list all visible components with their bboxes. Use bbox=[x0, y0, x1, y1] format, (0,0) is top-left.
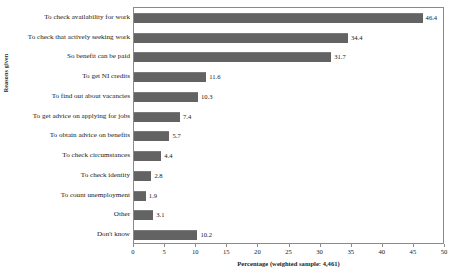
bar bbox=[134, 52, 331, 62]
bar-value-label: 31.7 bbox=[334, 52, 346, 62]
x-tick-mark bbox=[413, 244, 414, 247]
horizontal-bar-chart: Reasons given To check availability for … bbox=[0, 0, 454, 275]
x-tick-label: 20 bbox=[245, 248, 269, 256]
x-tick-label: 40 bbox=[370, 248, 394, 256]
x-tick-mark bbox=[320, 244, 321, 247]
x-tick-label: 15 bbox=[214, 248, 238, 256]
x-tick-label: 5 bbox=[152, 248, 176, 256]
bar-value-label: 3.1 bbox=[156, 210, 164, 220]
x-tick-label: 25 bbox=[277, 248, 301, 256]
x-tick-mark bbox=[289, 244, 290, 247]
bar bbox=[134, 210, 153, 220]
bar-value-label: 1.9 bbox=[149, 191, 157, 201]
x-tick-mark bbox=[226, 244, 227, 247]
bar-value-label: 10.2 bbox=[200, 230, 212, 240]
category-label: Don't know bbox=[10, 230, 130, 238]
x-tick-label: 0 bbox=[121, 248, 145, 256]
x-tick-label: 50 bbox=[432, 248, 454, 256]
bar bbox=[134, 72, 206, 82]
bar-value-label: 5.7 bbox=[172, 131, 180, 141]
category-label: To get advice on applying for jobs bbox=[10, 112, 130, 120]
bar bbox=[134, 171, 151, 181]
x-tick-label: 45 bbox=[401, 248, 425, 256]
x-tick-mark bbox=[444, 244, 445, 247]
category-label: So benefit can be paid bbox=[10, 52, 130, 60]
category-label: To get NI credits bbox=[10, 72, 130, 80]
category-label: To count unemployment bbox=[10, 191, 130, 199]
bar bbox=[134, 151, 161, 161]
x-tick-mark bbox=[382, 244, 383, 247]
x-axis-title: Percentage (weighted sample: 4,461) bbox=[133, 260, 444, 267]
bar bbox=[134, 131, 169, 141]
bar-value-label: 34.4 bbox=[351, 33, 363, 43]
bar-value-label: 2.8 bbox=[154, 171, 162, 181]
plot-area: 46.434.431.711.610.37.45.74.42.81.93.110… bbox=[133, 7, 444, 244]
bar bbox=[134, 191, 146, 201]
category-label: To obtain advice on benefits bbox=[10, 131, 130, 139]
x-tick-label: 10 bbox=[183, 248, 207, 256]
category-axis-labels: To check availability for workTo check t… bbox=[10, 7, 130, 244]
bar-value-label: 46.4 bbox=[426, 13, 438, 23]
x-axis-ticks: 05101520253035404550 bbox=[133, 244, 444, 260]
bar-value-label: 7.4 bbox=[183, 112, 191, 122]
bar bbox=[134, 33, 348, 43]
x-tick-mark bbox=[257, 244, 258, 247]
bar bbox=[134, 92, 198, 102]
category-label: To check availability for work bbox=[10, 13, 130, 21]
x-tick-mark bbox=[133, 244, 134, 247]
category-label: Other bbox=[10, 210, 130, 218]
bar-value-label: 11.6 bbox=[209, 72, 220, 82]
bar-value-label: 4.4 bbox=[164, 151, 172, 161]
category-label: To check identity bbox=[10, 171, 130, 179]
category-label: To find out about vacancies bbox=[10, 92, 130, 100]
category-label: To check circumstances bbox=[10, 151, 130, 159]
x-tick-mark bbox=[351, 244, 352, 247]
bar-value-label: 10.3 bbox=[201, 92, 213, 102]
bar bbox=[134, 112, 180, 122]
x-tick-mark bbox=[195, 244, 196, 247]
x-tick-mark bbox=[164, 244, 165, 247]
category-label: To check that actively seeking work bbox=[10, 33, 130, 41]
bar bbox=[134, 13, 423, 23]
x-tick-label: 30 bbox=[308, 248, 332, 256]
x-tick-label: 35 bbox=[339, 248, 363, 256]
bar bbox=[134, 230, 197, 240]
